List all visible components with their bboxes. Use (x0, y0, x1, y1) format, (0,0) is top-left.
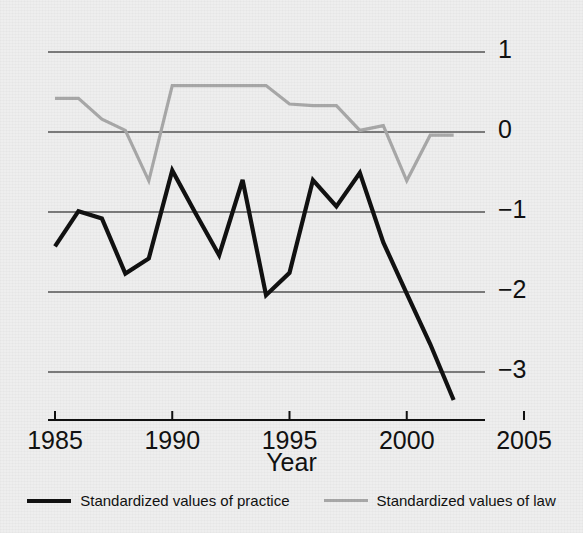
y-axis-tick-label: −2 (498, 275, 527, 304)
x-axis-title: Year (0, 448, 583, 477)
x-axis-group (48, 411, 524, 420)
y-axis-tick-label: 1 (498, 35, 512, 64)
chart-figure: 10−1−2−3 19851990199520002005 Year Stand… (0, 0, 583, 533)
legend-item-practice: Standardized values of practice (27, 492, 289, 509)
y-axis-tick-label: −3 (498, 355, 527, 384)
series-line (55, 86, 454, 181)
legend-label-practice: Standardized values of practice (80, 492, 289, 509)
legend-item-law: Standardized values of law (324, 492, 556, 509)
y-axis-tick-label: 0 (498, 115, 512, 144)
legend-swatch-law-line-icon (324, 499, 368, 502)
y-axis-tick-label: −1 (498, 195, 527, 224)
legend-label-law: Standardized values of law (377, 492, 556, 509)
legend-swatch-practice-line-icon (27, 499, 71, 503)
chart-legend: Standardized values of practice Standard… (0, 492, 583, 509)
series-line (55, 170, 454, 400)
